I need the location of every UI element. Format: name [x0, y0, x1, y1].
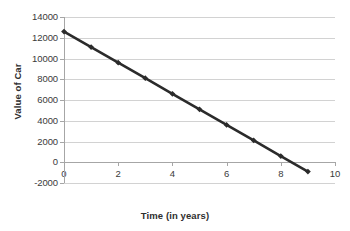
gridline: [64, 183, 335, 184]
y-axis-tick: [60, 183, 64, 184]
data-series-line: [64, 17, 335, 183]
y-axis-title: Value of Car: [12, 37, 23, 147]
y-axis-tick-label: 14000: [14, 11, 58, 22]
x-axis-title: Time (in years): [0, 210, 350, 221]
plot-area: [64, 17, 335, 183]
y-axis-tick-label: 0: [14, 156, 58, 167]
line-chart: -200002000400060008000100001200014000 02…: [0, 0, 350, 231]
x-axis-tick: [335, 162, 336, 166]
